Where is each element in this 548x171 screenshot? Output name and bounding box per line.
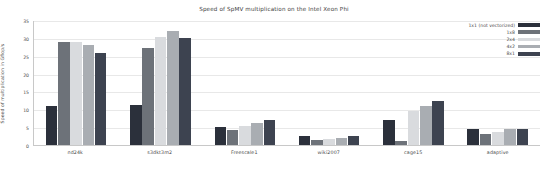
bar (95, 53, 107, 145)
bar (492, 132, 504, 145)
bar (395, 141, 407, 145)
legend-item: 2x4 (506, 36, 540, 42)
legend-swatch (518, 30, 540, 34)
legend-item-label: 2x4 (506, 37, 515, 42)
legend-item-label: 4x2 (506, 44, 515, 49)
x-axis-ticks: nd24ks3dkt3m2Freescale1wiki2007cage15ada… (33, 150, 540, 160)
y-tick-label: 35 (11, 19, 29, 24)
bar (167, 31, 179, 145)
plot-area (33, 21, 540, 146)
bar (227, 130, 239, 145)
chart-legend: 1x1 (not vectorized)1x82x44x28x1 (468, 22, 540, 57)
bar (70, 42, 82, 145)
bar-group (34, 21, 118, 145)
legend-swatch (518, 52, 540, 56)
y-tick-label: 10 (11, 108, 29, 113)
bar (311, 140, 323, 145)
bar-group (287, 21, 371, 145)
bar (504, 129, 516, 145)
bar (130, 105, 142, 145)
bar (299, 136, 311, 145)
x-tick-label: s3dkt3m2 (118, 150, 203, 160)
y-axis-label: Speed of multiplication in Gflop/s (0, 21, 9, 146)
y-tick-label: 20 (11, 72, 29, 77)
legend-item: 4x2 (506, 44, 540, 50)
y-tick-label: 25 (11, 54, 29, 59)
bar (383, 120, 395, 145)
bar-groups (34, 21, 540, 145)
bar (155, 37, 167, 145)
bar (432, 101, 444, 145)
bar-group (371, 21, 455, 145)
bar (83, 45, 95, 145)
bar (348, 136, 360, 145)
bar-group (118, 21, 202, 145)
bar (480, 134, 492, 145)
y-tick-label: 30 (11, 36, 29, 41)
bar-group (203, 21, 287, 145)
bar (142, 48, 154, 145)
chart-figure: Speed of SpMV multiplication on the Inte… (0, 0, 548, 171)
bar (251, 123, 263, 145)
legend-item-label: 1x8 (506, 30, 515, 35)
legend-item: 1x1 (not vectorized) (468, 22, 540, 28)
y-axis-ticks: 05101520253035 (11, 21, 29, 146)
x-tick-label: nd24k (33, 150, 118, 160)
bar (58, 42, 70, 145)
x-tick-label: wiki2007 (287, 150, 372, 160)
bar (215, 127, 227, 145)
x-tick-label: adaptive (456, 150, 541, 160)
legend-swatch (518, 23, 540, 27)
legend-swatch (518, 45, 540, 49)
bar (239, 126, 251, 145)
legend-item: 8x1 (506, 51, 540, 57)
bar (46, 106, 58, 145)
y-tick-label: 0 (11, 144, 29, 149)
bar (336, 138, 348, 145)
bar (420, 106, 432, 145)
x-tick-label: cage15 (371, 150, 456, 160)
y-tick-label: 5 (11, 126, 29, 131)
legend-item-label: 8x1 (506, 51, 515, 56)
chart-title: Speed of SpMV multiplication on the Inte… (0, 6, 548, 12)
bar (517, 129, 529, 145)
bar (179, 38, 191, 145)
bar (467, 129, 479, 145)
legend-item: 1x8 (506, 29, 540, 35)
legend-item-label: 1x1 (not vectorized) (468, 23, 515, 28)
bar (264, 120, 276, 145)
bar (408, 111, 420, 145)
legend-swatch (518, 38, 540, 42)
x-tick-label: Freescale1 (202, 150, 287, 160)
bar (323, 139, 335, 145)
y-tick-label: 15 (11, 90, 29, 95)
